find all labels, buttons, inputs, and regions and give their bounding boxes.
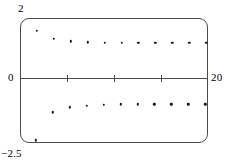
scatter-plot-figure: 2 −2.5 0 20 bbox=[0, 0, 229, 163]
y-axis-min-label: −2.5 bbox=[1, 148, 22, 159]
x-axis-tick bbox=[161, 75, 162, 82]
x-axis-tick bbox=[67, 75, 68, 82]
x-axis-max-label: 20 bbox=[211, 72, 222, 83]
y-axis-zero-label: 0 bbox=[8, 72, 14, 83]
y-axis-max-label: 2 bbox=[18, 3, 24, 14]
x-axis-tick bbox=[114, 75, 115, 82]
